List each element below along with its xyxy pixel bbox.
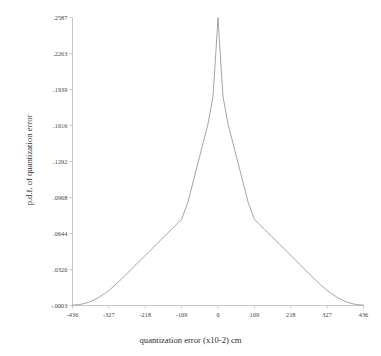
y-tick-label: .0320: [53, 266, 67, 273]
axes-group: [70, 18, 364, 309]
x-tick-label: 218: [271, 311, 311, 318]
x-tick-label: -218: [125, 311, 165, 318]
x-axis-title: quantization error (x10-2) cm: [0, 335, 381, 345]
y-tick-label: .0968: [53, 194, 67, 201]
y-tick-label: .1616: [53, 122, 67, 129]
y-tick-label: .2587: [53, 14, 67, 21]
x-tick-label: 109: [234, 311, 274, 318]
pdf-curve: [73, 18, 364, 306]
y-tick-label: .1939: [53, 86, 67, 93]
x-tick-label: -327: [89, 311, 129, 318]
x-tick-label: -109: [162, 311, 202, 318]
y-tick-label: -.0003: [51, 302, 68, 309]
x-tick-label: 436: [344, 311, 381, 318]
y-tick-label: .2263: [53, 50, 67, 57]
y-tick-label: .0644: [53, 230, 67, 237]
x-tick-label: 327: [307, 311, 347, 318]
y-tick-label: .1292: [53, 158, 67, 165]
chart-figure: -.0003.0320.0644.0968.1292.1616.1939.226…: [0, 0, 381, 356]
x-tick-label: -436: [53, 311, 93, 318]
data-series-group: [73, 18, 364, 306]
y-axis-title: p.d.f. of quantization error: [24, 60, 34, 260]
x-tick-label: 0: [198, 311, 238, 318]
